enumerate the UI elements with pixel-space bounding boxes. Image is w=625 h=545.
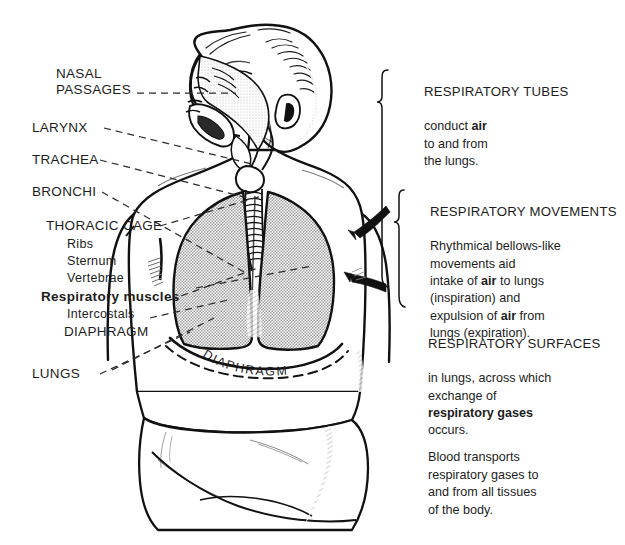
- right-braces: [377, 70, 405, 307]
- block-respiratory-surfaces-body: in lungs, across whichexchange ofrespira…: [428, 370, 601, 440]
- block-respiratory-tubes-body: conduct airto and fromthe lungs.: [424, 118, 568, 170]
- block-respiratory-movements-heading: RESPIRATORY MOVEMENTS: [430, 203, 617, 220]
- block-respiratory-tubes: RESPIRATORY TUBES conduct airto and from…: [424, 66, 568, 188]
- label-trachea: TRACHEA: [32, 152, 99, 168]
- label-ribs: Ribs: [67, 237, 93, 253]
- label-larynx: LARYNX: [32, 120, 88, 136]
- respiratory-system-figure: DIAPHRAGM: [0, 0, 625, 545]
- label-diaphragm: DIAPHRAGM: [64, 324, 148, 340]
- label-bronchi: BRONCHI: [32, 184, 96, 200]
- label-vertebrae: Vertebrae: [67, 271, 124, 287]
- label-intercostals: Intercostals: [67, 307, 135, 323]
- block-blood-transport: Blood transportsrespiratory gases toand …: [428, 432, 539, 536]
- label-sternum: Sternum: [67, 254, 116, 270]
- ear: [275, 95, 300, 129]
- label-lungs: LUNGS: [32, 366, 80, 382]
- label-thoracic-cage: THORACIC CAGE: [46, 218, 162, 234]
- label-nasal-passages: NASALPASSAGES: [56, 66, 131, 97]
- label-respiratory-muscles: Respiratory muscles: [41, 289, 180, 305]
- block-respiratory-surfaces-heading: RESPIRATORY SURFACES: [428, 335, 601, 352]
- brace-respiratory-movements: [394, 190, 405, 307]
- block-respiratory-tubes-heading: RESPIRATORY TUBES: [424, 83, 568, 100]
- block-blood-transport-body: Blood transportsrespiratory gases toand …: [428, 449, 539, 519]
- brace-respiratory-tubes: [377, 70, 388, 287]
